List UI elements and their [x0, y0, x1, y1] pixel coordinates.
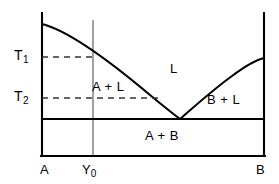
composition-y0-subscript: 0	[91, 168, 97, 179]
temperature-2-text: T	[14, 88, 23, 104]
liquidus-curve-b	[180, 58, 264, 119]
temperature-2-subscript: 2	[23, 95, 29, 106]
liquidus-curve-a	[42, 24, 180, 119]
composition-y0-text: Y	[82, 162, 91, 177]
phase-diagram-figure: T1 T2 A + L L B + L A + B A Y0 B	[0, 0, 279, 184]
temperature-2-label: T2	[14, 89, 29, 106]
component-b-label: B	[256, 163, 265, 176]
temperature-1-subscript: 1	[23, 54, 29, 65]
temperature-1-text: T	[14, 47, 23, 63]
temperature-1-label: T1	[14, 48, 29, 65]
component-a-label: A	[40, 163, 49, 176]
region-label-b-plus-liquid: B + L	[207, 93, 240, 106]
composition-y0-label: Y0	[82, 163, 96, 179]
region-label-a-plus-liquid: A + L	[92, 80, 125, 93]
region-label-liquid: L	[170, 62, 178, 75]
region-label-a-plus-b: A + B	[145, 129, 179, 142]
